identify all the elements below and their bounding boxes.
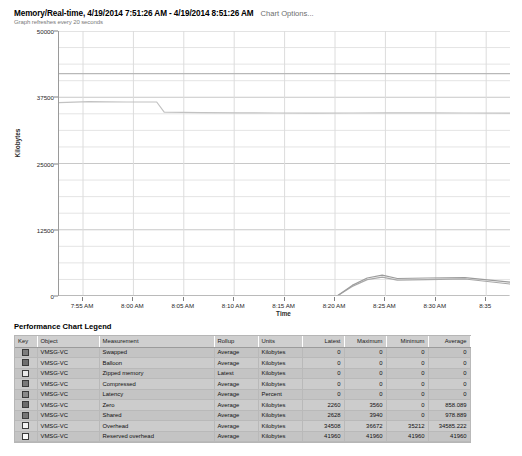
x-tick-mark (82, 297, 83, 301)
legend-key-cell[interactable] (15, 368, 37, 379)
table-row[interactable]: VMSG-VCBalloonAverageKilobytes0000 (15, 358, 470, 369)
legend-measurement-cell: Latency (99, 389, 214, 400)
legend-key-cell[interactable] (15, 410, 37, 421)
legend-latest-cell: 34508 (302, 421, 344, 432)
table-row[interactable]: VMSG-VCLatencyAveragePercent0000 (15, 389, 470, 400)
legend-units-cell: Kilobytes (258, 368, 302, 379)
legend-rollup-cell: Average (214, 410, 258, 421)
legend-object-cell: VMSG-VC (37, 379, 99, 390)
legend-units-cell: Kilobytes (258, 410, 302, 421)
legend-maximum-cell: 3560 (344, 400, 386, 411)
legend-measurement-cell: Overhead (99, 421, 214, 432)
legend-latest-cell: 0 (302, 347, 344, 358)
legend-key-cell[interactable] (15, 347, 37, 358)
legend-measurement-cell: Zipped memory (99, 368, 214, 379)
legend-latest-cell: 41960 (302, 431, 344, 442)
x-tick-label: 8:15 AM (272, 302, 295, 309)
legend-measurement-cell: Reserved overhead (99, 431, 214, 442)
x-tick-label: 8:25 AM (373, 302, 396, 309)
x-tick-mark (485, 297, 486, 301)
legend-average-cell: 0 (428, 389, 470, 400)
legend-key-cell[interactable] (15, 421, 37, 432)
legend-rollup-cell: Average (214, 431, 258, 442)
legend-maximum-cell: 3940 (344, 410, 386, 421)
legend-header-row: KeyObjectMeasurementRollupUnitsLatestMax… (15, 336, 470, 347)
legend-units-cell: Kilobytes (258, 379, 302, 390)
legend-measurement-cell: Zero (99, 400, 214, 411)
legend-measurement-cell: Balloon (99, 358, 214, 369)
performance-chart-page: Memory/Real-time, 4/19/2014 7:51:26 AM -… (0, 0, 522, 456)
legend-average-cell: 858.089 (428, 400, 470, 411)
legend-measurement-cell: Compressed (99, 379, 214, 390)
x-axis-title: Time (58, 310, 509, 317)
plot-area[interactable] (58, 31, 509, 296)
legend-latest-cell: 2628 (302, 410, 344, 421)
legend-object-cell: VMSG-VC (37, 421, 99, 432)
table-row[interactable]: VMSG-VCCompressedAverageKilobytes0000 (15, 379, 470, 390)
x-tick-mark (132, 297, 133, 301)
table-row[interactable]: VMSG-VCSharedAverageKilobytes26283940097… (15, 410, 470, 421)
legend-measurement-cell: Shared (99, 410, 214, 421)
table-row[interactable]: VMSG-VCZipped memoryLatestKilobytes0000 (15, 368, 470, 379)
y-tick-label: 50000 (37, 28, 54, 35)
legend-minimum-cell: 0 (386, 358, 428, 369)
legend-column-header[interactable]: Average (428, 336, 470, 347)
chart-svg (59, 31, 510, 296)
legend-units-cell: Kilobytes (258, 421, 302, 432)
legend-latest-cell: 2260 (302, 400, 344, 411)
table-row[interactable]: VMSG-VCZeroAverageKilobytes226035600858.… (15, 400, 470, 411)
y-tick-label: 25000 (37, 160, 54, 167)
legend-maximum-cell: 0 (344, 389, 386, 400)
legend-rollup-cell: Average (214, 389, 258, 400)
chart-header: Memory/Real-time, 4/19/2014 7:51:26 AM -… (14, 9, 510, 25)
legend-maximum-cell: 0 (344, 347, 386, 358)
legend-object-cell: VMSG-VC (37, 400, 99, 411)
legend-column-header[interactable]: Units (258, 336, 302, 347)
x-tick-mark (233, 297, 234, 301)
legend-table: KeyObjectMeasurementRollupUnitsLatestMax… (15, 336, 471, 442)
color-swatch-icon (22, 391, 29, 398)
x-tick-mark (435, 297, 436, 301)
legend-key-cell[interactable] (15, 379, 37, 390)
y-axis-title: Kilobytes (14, 133, 21, 143)
color-swatch-icon (22, 422, 29, 429)
legend-rollup-cell: Latest (214, 368, 258, 379)
y-tick-label: 37500 (37, 94, 54, 101)
x-tick-label: 8:35 (479, 302, 491, 309)
legend-column-header[interactable]: Maximum (344, 336, 386, 347)
legend-key-cell[interactable] (15, 389, 37, 400)
x-tick-label: 8:20 AM (323, 302, 346, 309)
legend-average-cell: 0 (428, 358, 470, 369)
color-swatch-icon (22, 370, 29, 377)
legend-body: VMSG-VCSwappedAverageKilobytes0000VMSG-V… (15, 347, 470, 442)
legend-minimum-cell: 35212 (386, 421, 428, 432)
color-swatch-icon (22, 433, 29, 440)
legend-units-cell: Kilobytes (258, 347, 302, 358)
table-row[interactable]: VMSG-VCReserved overheadAverageKilobytes… (15, 431, 470, 442)
legend-rollup-cell: Average (214, 358, 258, 369)
legend-column-header[interactable]: Measurement (99, 336, 214, 347)
legend-column-header[interactable]: Object (37, 336, 99, 347)
x-tick-mark (334, 297, 335, 301)
legend-column-header[interactable]: Key (15, 336, 37, 347)
legend-maximum-cell: 0 (344, 368, 386, 379)
legend-minimum-cell: 0 (386, 379, 428, 390)
legend-minimum-cell: 0 (386, 368, 428, 379)
y-tick-label: 12500 (37, 226, 54, 233)
table-row[interactable]: VMSG-VCSwappedAverageKilobytes0000 (15, 347, 470, 358)
y-axis-title-label: Kilobytes (14, 129, 21, 158)
legend-column-header[interactable]: Rollup (214, 336, 258, 347)
legend-key-cell[interactable] (15, 400, 37, 411)
x-tick-label: 8:30 AM (423, 302, 446, 309)
legend-column-header[interactable]: Latest (302, 336, 344, 347)
chart-options-link[interactable]: Chart Options... (261, 9, 314, 18)
legend-units-cell: Kilobytes (258, 358, 302, 369)
legend-column-header[interactable]: Minimum (386, 336, 428, 347)
legend-key-cell[interactable] (15, 358, 37, 369)
table-row[interactable]: VMSG-VCOverheadAverageKilobytes345083667… (15, 421, 470, 432)
legend-rollup-cell: Average (214, 421, 258, 432)
legend-key-cell[interactable] (15, 431, 37, 442)
legend-table-wrap: KeyObjectMeasurementRollupUnitsLatestMax… (14, 335, 471, 443)
legend-average-cell: 978.889 (428, 410, 470, 421)
page-title: Memory/Real-time, 4/19/2014 7:51:26 AM -… (14, 9, 254, 18)
